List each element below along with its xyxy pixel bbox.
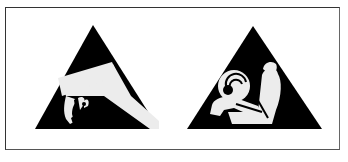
warning-symbols xyxy=(0,0,348,162)
esd-warning-icon xyxy=(35,25,159,129)
airbag-warning-icon xyxy=(187,26,322,129)
